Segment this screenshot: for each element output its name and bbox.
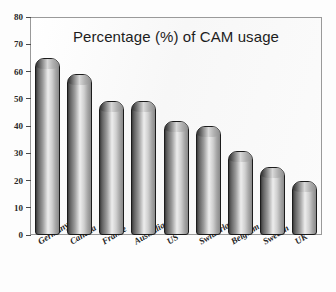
bar-top-cap	[261, 168, 284, 178]
chart-title: Percentage (%) of CAM usage	[30, 28, 322, 45]
bar-top-cap	[293, 182, 316, 192]
bar-body	[260, 167, 285, 235]
y-axis-tick-label: 80	[0, 13, 23, 22]
y-axis: 01020304050607080	[0, 14, 31, 236]
bar-belgium	[228, 151, 253, 235]
bar-top-cap	[229, 152, 252, 162]
bar-us	[164, 121, 189, 235]
bar-france	[99, 101, 124, 235]
y-axis-tick-label: 0	[0, 231, 23, 240]
bar-germany	[35, 58, 60, 235]
y-axis-tick-label: 40	[0, 122, 23, 131]
bar-chart-figure: Percentage (%) of CAM usage 010203040506…	[0, 0, 336, 292]
y-axis-tick-label: 60	[0, 68, 23, 77]
bar-body	[292, 181, 317, 236]
bar-uk	[292, 181, 317, 236]
bar-body	[67, 74, 92, 235]
y-axis-tick-label: 10	[0, 204, 23, 213]
bar-top-cap	[197, 127, 220, 137]
bar-body	[131, 101, 156, 235]
y-axis-tick-label: 20	[0, 177, 23, 186]
bar-top-cap	[165, 122, 188, 132]
bar-top-cap	[36, 59, 59, 69]
bar-top-cap	[100, 102, 123, 112]
bar-body	[35, 58, 60, 235]
bars-layer	[31, 18, 321, 235]
bar-top-cap	[132, 102, 155, 112]
y-axis-tick-label: 70	[0, 40, 23, 49]
bar-sweden	[260, 167, 285, 235]
bar-switzerland	[196, 126, 221, 235]
bar-body	[196, 126, 221, 235]
y-axis-tick-label: 50	[0, 95, 23, 104]
bar-body	[228, 151, 253, 235]
bar-body	[164, 121, 189, 235]
x-axis-labels: GermanyCanadaFranceAustraliaUSSwitzerlan…	[31, 238, 323, 292]
bar-top-cap	[68, 75, 91, 85]
bar-australia	[131, 101, 156, 235]
page-background: Percentage (%) of CAM usage 010203040506…	[0, 0, 336, 292]
bar-canada	[67, 74, 92, 235]
bar-body	[99, 101, 124, 235]
y-axis-tick-label: 30	[0, 149, 23, 158]
